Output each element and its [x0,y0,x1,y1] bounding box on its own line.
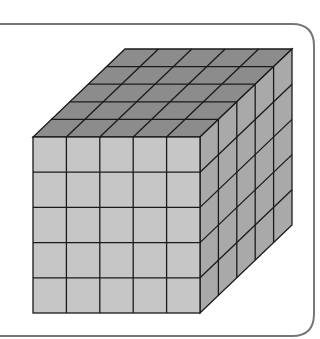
cube-5x5x5 [33,49,292,313]
cube-diagram [0,0,320,339]
front-face [33,137,200,313]
figure-canvas [0,0,320,339]
